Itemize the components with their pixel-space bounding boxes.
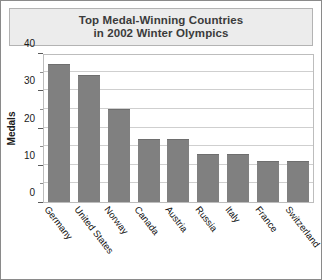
x-tick-label: Norway	[103, 204, 131, 236]
bar	[48, 64, 70, 202]
y-tick-label: 10	[24, 149, 35, 160]
bar-series	[44, 55, 313, 202]
x-tick-label: Italy	[223, 204, 242, 225]
chart-frame: Top Medal-Winning Countries in 2002 Wint…	[0, 0, 322, 280]
x-tick-label: Canada	[133, 204, 162, 237]
x-tick-label: Russia	[193, 204, 220, 234]
y-tick-label: 0	[29, 187, 35, 198]
chart-title-line-2: in 2002 Winter Olympics	[93, 27, 228, 41]
x-axis-labels: GermanyUnited StatesNorwayCanadaAustriaR…	[43, 204, 314, 278]
y-axis: 010203040	[1, 54, 43, 203]
chart-title-line-1: Top Medal-Winning Countries	[79, 14, 244, 28]
bar	[227, 154, 249, 202]
y-tick-label: 20	[24, 112, 35, 123]
chart-title-box: Top Medal-Winning Countries in 2002 Wint…	[9, 8, 313, 46]
bar	[287, 161, 309, 202]
x-tick-label: Germany	[42, 204, 75, 242]
x-tick-label: Switzerland	[283, 204, 322, 249]
y-tick-label: 30	[24, 75, 35, 86]
y-tick-label: 40	[24, 38, 35, 49]
bar	[78, 75, 100, 202]
bar	[197, 154, 219, 202]
x-tick-label: France	[253, 204, 280, 234]
x-tick-label: Austria	[163, 204, 190, 234]
bar	[108, 109, 130, 202]
bar	[257, 161, 279, 202]
bar	[138, 139, 160, 202]
plot-area	[43, 54, 314, 203]
bar	[167, 139, 189, 202]
